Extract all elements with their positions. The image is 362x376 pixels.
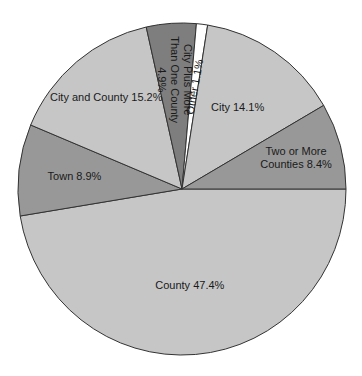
slice-label-two-or-more-counties: Two or MoreCounties 8.4%: [260, 145, 332, 170]
slice-label-city: City 14.1%: [211, 101, 264, 113]
pie-slice-county: [20, 189, 346, 355]
slice-label-town: Town 8.9%: [48, 170, 102, 182]
slice-label-county: County 47.4%: [155, 279, 224, 291]
slice-label-city-and-county: City and County 15.2%: [50, 91, 163, 103]
pie-chart: County 47.4%Town 8.9%City and County 15.…: [0, 0, 362, 376]
